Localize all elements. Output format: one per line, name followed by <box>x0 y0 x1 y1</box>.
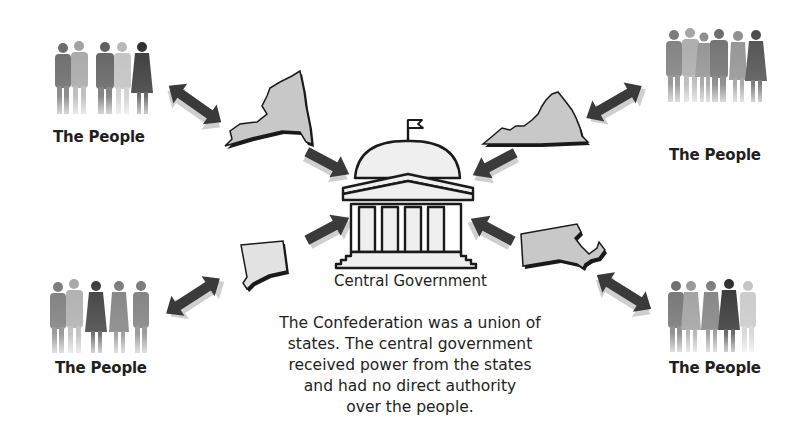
caption-line: states. The central government <box>260 334 560 355</box>
double-arrow-icon <box>159 76 230 138</box>
state-massachusetts-icon <box>519 222 611 274</box>
capitol-building-icon <box>338 118 484 270</box>
central-government-label: Central Government <box>334 272 487 290</box>
state-new-york-icon <box>222 66 318 156</box>
caption-line: over the people. <box>260 397 560 418</box>
caption-line: The Confederation was a union of <box>260 313 560 334</box>
caption-line: and had no direct authority <box>260 376 560 397</box>
state-virginia-icon <box>480 88 595 150</box>
caption-line: received power from the states <box>260 355 560 376</box>
state-connecticut-icon <box>239 239 295 295</box>
double-arrow-icon <box>160 267 231 327</box>
diagram-caption: The Confederation was a union of states.… <box>260 313 560 418</box>
